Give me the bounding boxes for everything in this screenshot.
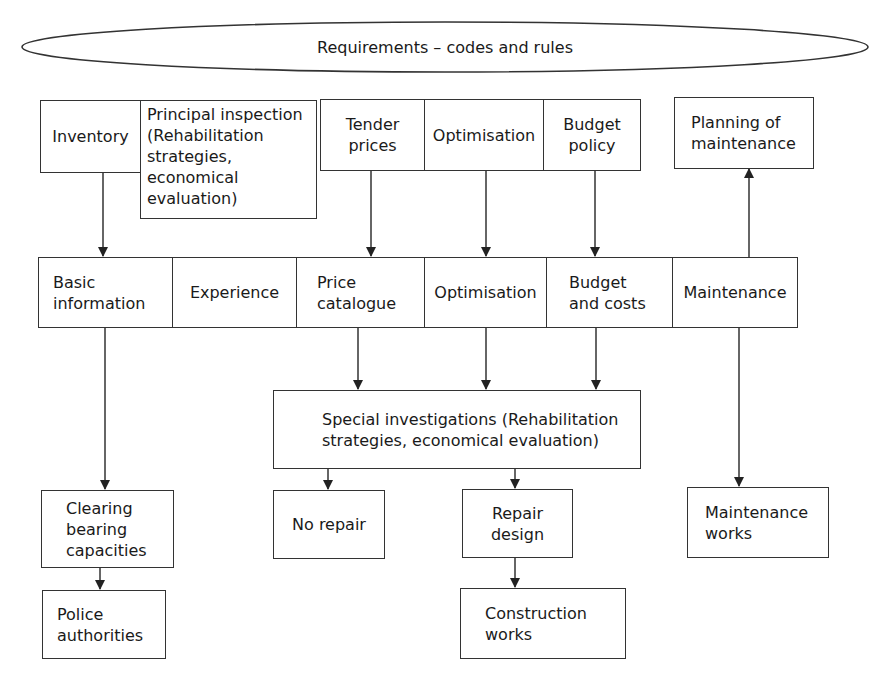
node-label: Maintenance works bbox=[705, 502, 808, 544]
node-label: Optimisation bbox=[434, 282, 536, 303]
node-experience: Experience bbox=[172, 257, 297, 328]
node-construction-works: Construction works bbox=[460, 588, 626, 659]
node-label: Police authorities bbox=[57, 604, 143, 646]
node-label: Basic information bbox=[53, 272, 145, 314]
node-label: Inventory bbox=[52, 126, 128, 147]
node-label: Maintenance bbox=[683, 282, 786, 303]
node-optimisation-top: Optimisation bbox=[424, 99, 544, 171]
node-label: Budget and costs bbox=[569, 272, 646, 314]
node-inventory: Inventory bbox=[40, 100, 141, 173]
node-planning-of-maintenance: Planning of maintenance bbox=[674, 97, 814, 169]
node-optimisation-middle: Optimisation bbox=[424, 257, 547, 328]
node-no-repair: No repair bbox=[273, 490, 385, 559]
node-budget-and-costs: Budget and costs bbox=[546, 257, 673, 328]
node-label: Special investigations (Rehabilitation s… bbox=[322, 409, 618, 451]
node-tender-prices: Tender prices bbox=[320, 99, 425, 171]
node-maintenance-works: Maintenance works bbox=[687, 487, 829, 558]
node-label: Optimisation bbox=[433, 125, 535, 146]
node-clearing-bearing-capacities: Clearing bearing capacities bbox=[41, 490, 174, 568]
node-label: Construction works bbox=[485, 603, 587, 645]
node-label: Repair design bbox=[491, 503, 544, 545]
node-label: Budget policy bbox=[563, 114, 621, 156]
node-label: Principal inspection (Rehabilitation str… bbox=[147, 104, 303, 209]
node-police-authorities: Police authorities bbox=[42, 590, 166, 659]
node-price-catalogue: Price catalogue bbox=[296, 257, 425, 328]
node-label: Experience bbox=[190, 282, 279, 303]
node-label: Planning of maintenance bbox=[691, 112, 796, 154]
node-label: Price catalogue bbox=[317, 272, 396, 314]
node-budget-policy: Budget policy bbox=[543, 99, 641, 171]
requirements-label: Requirements – codes and rules bbox=[22, 22, 868, 72]
node-label: Clearing bearing capacities bbox=[66, 498, 147, 561]
node-maintenance: Maintenance bbox=[672, 257, 798, 328]
node-principal-inspection: Principal inspection (Rehabilitation str… bbox=[140, 100, 317, 219]
node-repair-design: Repair design bbox=[462, 489, 573, 558]
requirements-text: Requirements – codes and rules bbox=[317, 38, 573, 57]
node-label: No repair bbox=[292, 514, 366, 535]
node-basic-information: Basic information bbox=[38, 257, 173, 328]
node-special-investigations: Special investigations (Rehabilitation s… bbox=[273, 390, 641, 469]
node-label: Tender prices bbox=[346, 114, 400, 156]
